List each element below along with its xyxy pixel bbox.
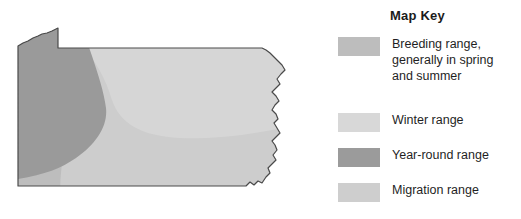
legend-item-winter: Winter range: [336, 112, 521, 132]
legend-swatch-winter: [338, 113, 380, 132]
legend-swatch-migration: [338, 183, 380, 202]
range-map-figure: Map Key Breeding range, generally in spr…: [0, 0, 521, 219]
legend-label-year-round: Year-round range: [392, 147, 521, 163]
legend-label-breeding-line-1: Breeding range,: [392, 36, 521, 52]
legend-label-breeding-line-2: generally in spring: [392, 52, 521, 68]
legend-label-migration: Migration range: [392, 182, 521, 198]
legend-label-breeding-line-3: and summer: [392, 68, 521, 84]
legend-label-breeding: Breeding range, generally in spring and …: [392, 36, 521, 84]
map-key-title: Map Key: [390, 8, 445, 23]
pennsylvania-range-map: [0, 0, 340, 219]
legend-swatch-breeding: [338, 37, 380, 56]
legend-item-migration: Migration range: [336, 182, 521, 202]
legend-label-year-round-line-1: Year-round range: [392, 147, 521, 163]
legend-label-winter: Winter range: [392, 112, 521, 128]
map-svg: [0, 0, 340, 219]
legend-item-year-round: Year-round range: [336, 147, 521, 167]
map-key-legend: Map Key Breeding range, generally in spr…: [336, 0, 521, 219]
legend-swatch-year-round: [338, 148, 380, 167]
legend-label-winter-line-1: Winter range: [392, 112, 521, 128]
legend-item-breeding: Breeding range, generally in spring and …: [336, 36, 521, 84]
legend-label-migration-line-1: Migration range: [392, 182, 521, 198]
